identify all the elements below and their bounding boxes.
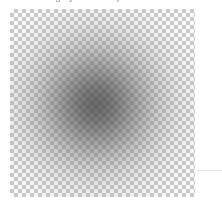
blob-layer [10,9,195,197]
clipped-caption-text: grayscale blur preview [10,0,195,2]
blob-halo-gradient [10,9,192,197]
blob-outer-spread [10,9,195,197]
hairline-rule [196,170,222,171]
canvas-stage: grayscale blur preview [0,0,222,208]
blob-core-gradient [10,9,195,197]
transparency-checkerboard[interactable] [10,9,195,197]
